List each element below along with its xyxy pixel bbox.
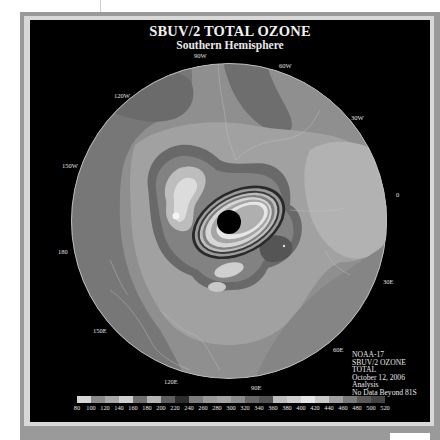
color-scale-labels: 8010012014016018020022024026028030032034… bbox=[73, 404, 393, 412]
light-lobe-south-2 bbox=[208, 282, 226, 292]
no-data-pole-disk bbox=[217, 210, 241, 234]
longitude-label: 90W bbox=[194, 52, 207, 59]
color-scale-bar bbox=[77, 396, 385, 403]
color-scale-label: 500 bbox=[366, 404, 375, 411]
color-scale-label: 160 bbox=[128, 404, 137, 411]
color-scale-label: 200 bbox=[156, 404, 165, 411]
color-scale-label: 380 bbox=[282, 404, 291, 411]
color-scale-label: 280 bbox=[212, 404, 221, 411]
longitude-label: 60E bbox=[333, 346, 343, 353]
color-scale-label: 400 bbox=[296, 404, 305, 411]
color-scale-segment bbox=[203, 396, 217, 403]
longitude-label: 60W bbox=[279, 62, 292, 69]
color-scale-segment bbox=[133, 396, 147, 403]
longitude-label: 150E bbox=[93, 327, 107, 334]
color-scale-segment bbox=[273, 396, 287, 403]
color-scale-segment bbox=[161, 396, 175, 403]
color-scale-segment bbox=[119, 396, 133, 403]
color-scale-segment bbox=[91, 396, 105, 403]
color-scale-segment bbox=[315, 396, 329, 403]
color-scale-segment bbox=[175, 396, 189, 403]
color-scale-label: 140 bbox=[114, 404, 123, 411]
color-scale-segment bbox=[287, 396, 301, 403]
longitude-label: 150W bbox=[62, 162, 78, 169]
color-scale-label: 460 bbox=[338, 404, 347, 411]
color-scale-label: 320 bbox=[240, 404, 249, 411]
color-scale-label: 180 bbox=[142, 404, 151, 411]
color-scale-segment bbox=[301, 396, 315, 403]
color-scale-segment bbox=[77, 396, 91, 403]
longitude-label: 0 bbox=[396, 191, 399, 198]
color-scale-label: 440 bbox=[324, 404, 333, 411]
color-scale-segment bbox=[357, 396, 371, 403]
map-title: SBUV/2 TOTAL OZONE bbox=[30, 23, 430, 40]
color-scale-segment bbox=[371, 396, 385, 403]
longitude-label: 180 bbox=[58, 248, 68, 255]
longitude-label: 120E bbox=[164, 378, 178, 385]
color-scale-segment bbox=[147, 396, 161, 403]
color-scale-label: 220 bbox=[170, 404, 179, 411]
longitude-label: 120W bbox=[114, 92, 130, 99]
color-scale-label: 420 bbox=[310, 404, 319, 411]
color-scale-segment bbox=[105, 396, 119, 403]
color-scale-segment bbox=[329, 396, 343, 403]
map-subtitle: Southern Hemisphere bbox=[30, 39, 430, 51]
color-scale-segment bbox=[259, 396, 273, 403]
color-scale-segment bbox=[245, 396, 259, 403]
longitude-label: 30W bbox=[351, 114, 364, 121]
color-scale-label: 300 bbox=[226, 404, 235, 411]
color-scale-label: 240 bbox=[184, 404, 193, 411]
color-scale-segment bbox=[217, 396, 231, 403]
color-scale-label: 340 bbox=[254, 404, 263, 411]
color-scale-segment bbox=[231, 396, 245, 403]
color-scale-label: 360 bbox=[268, 404, 277, 411]
color-scale-label: 80 bbox=[74, 404, 80, 411]
color-scale-label: 100 bbox=[86, 404, 95, 411]
longitude-label: 90E bbox=[251, 384, 261, 391]
color-scale-label: 120 bbox=[100, 404, 109, 411]
color-scale-segment bbox=[189, 396, 203, 403]
info-block: NOAA-17 SBUV/2 OZONE TOTAL October 12, 2… bbox=[352, 351, 417, 397]
point-marker bbox=[283, 245, 285, 247]
longitude-label: 30E bbox=[383, 278, 393, 285]
color-scale-label: 520 bbox=[380, 404, 389, 411]
color-scale-segment bbox=[343, 396, 357, 403]
corner-tab bbox=[390, 433, 430, 440]
color-scale-label: 260 bbox=[198, 404, 207, 411]
max-ozone-spot bbox=[173, 213, 180, 220]
color-scale-label: 480 bbox=[352, 404, 361, 411]
